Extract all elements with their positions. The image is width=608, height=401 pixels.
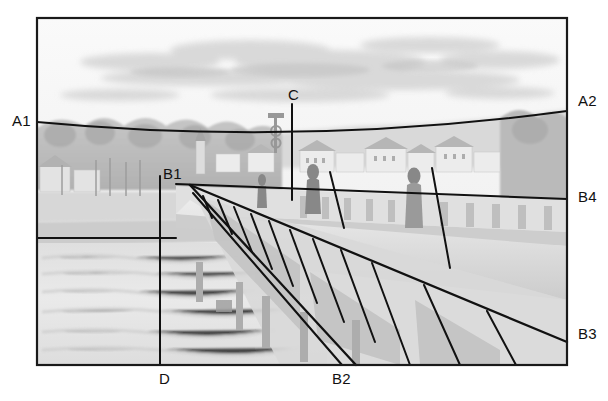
perspective-analysis-figure: [0, 0, 608, 401]
label-b2: B2: [332, 370, 351, 387]
label-a2: A2: [578, 92, 597, 109]
label-b4: B4: [578, 188, 597, 205]
label-b3: B3: [578, 325, 597, 342]
label-a1: A1: [12, 112, 31, 129]
label-b1: B1: [163, 165, 182, 182]
label-d: D: [159, 370, 170, 387]
figure-canvas: A1 A2 B4 B3 B1 B2 C D: [0, 0, 608, 401]
label-c: C: [288, 86, 299, 103]
